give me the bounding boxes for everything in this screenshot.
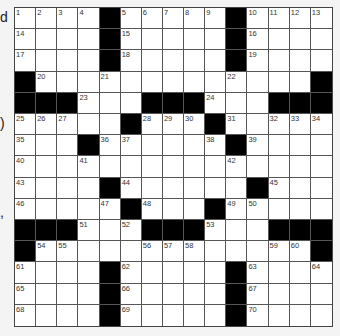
crossword-cell[interactable] [142,72,163,93]
crossword-cell[interactable] [78,114,99,135]
crossword-cell[interactable]: 19 [247,50,268,71]
crossword-cell[interactable]: 67 [247,284,268,305]
crossword-cell[interactable] [269,199,290,220]
crossword-cell[interactable] [205,72,226,93]
crossword-cell[interactable]: 29 [163,114,184,135]
crossword-cell[interactable] [205,178,226,199]
crossword-cell[interactable] [100,93,121,114]
crossword-cell[interactable] [121,72,142,93]
crossword-cell[interactable] [184,178,205,199]
crossword-cell[interactable]: 8 [184,8,205,29]
crossword-cell[interactable] [78,262,99,283]
crossword-cell[interactable] [78,72,99,93]
crossword-cell[interactable] [121,241,142,262]
crossword-cell[interactable]: 28 [142,114,163,135]
crossword-cell[interactable]: 30 [184,114,205,135]
crossword-cell[interactable] [226,241,247,262]
crossword-cell[interactable] [184,72,205,93]
crossword-cell[interactable] [184,156,205,177]
crossword-cell[interactable] [247,241,268,262]
crossword-cell[interactable]: 62 [121,262,142,283]
crossword-cell[interactable] [290,178,311,199]
crossword-cell[interactable] [226,220,247,241]
crossword-cell[interactable]: 56 [142,241,163,262]
crossword-cell[interactable] [290,72,311,93]
crossword-cell[interactable]: 39 [247,135,268,156]
crossword-cell[interactable] [269,305,290,326]
crossword-cell[interactable] [121,93,142,114]
crossword-cell[interactable] [311,50,332,71]
crossword-cell[interactable] [184,284,205,305]
crossword-cell[interactable]: 69 [121,305,142,326]
crossword-cell[interactable] [163,305,184,326]
crossword-cell[interactable] [57,305,78,326]
crossword-cell[interactable]: 24 [205,93,226,114]
crossword-cell[interactable]: 20 [36,72,57,93]
crossword-cell[interactable] [100,241,121,262]
crossword-cell[interactable] [142,135,163,156]
crossword-cell[interactable]: 14 [15,29,36,50]
crossword-cell[interactable]: 22 [226,72,247,93]
crossword-cell[interactable]: 18 [121,50,142,71]
crossword-cell[interactable] [36,178,57,199]
crossword-cell[interactable]: 59 [269,241,290,262]
crossword-cell[interactable] [269,50,290,71]
crossword-cell[interactable] [121,156,142,177]
crossword-cell[interactable]: 55 [57,241,78,262]
crossword-cell[interactable] [78,241,99,262]
crossword-cell[interactable] [163,156,184,177]
crossword-cell[interactable]: 52 [121,220,142,241]
crossword-cell[interactable] [78,284,99,305]
crossword-cell[interactable] [36,284,57,305]
crossword-cell[interactable]: 58 [184,241,205,262]
crossword-cell[interactable] [142,50,163,71]
crossword-cell[interactable]: 47 [100,199,121,220]
crossword-cell[interactable]: 6 [142,8,163,29]
crossword-cell[interactable] [78,305,99,326]
crossword-cell[interactable] [311,178,332,199]
crossword-cell[interactable] [57,29,78,50]
crossword-cell[interactable] [36,305,57,326]
crossword-cell[interactable]: 32 [269,114,290,135]
crossword-cell[interactable] [184,135,205,156]
crossword-cell[interactable] [269,262,290,283]
crossword-cell[interactable]: 61 [15,262,36,283]
crossword-cell[interactable] [163,199,184,220]
crossword-cell[interactable] [57,178,78,199]
crossword-cell[interactable]: 13 [311,8,332,29]
crossword-cell[interactable]: 51 [78,220,99,241]
crossword-cell[interactable]: 35 [15,135,36,156]
crossword-cell[interactable] [57,199,78,220]
crossword-cell[interactable] [290,135,311,156]
crossword-cell[interactable] [205,50,226,71]
crossword-cell[interactable]: 68 [15,305,36,326]
crossword-cell[interactable] [142,178,163,199]
crossword-cell[interactable] [142,156,163,177]
crossword-cell[interactable]: 60 [290,241,311,262]
crossword-cell[interactable] [78,50,99,71]
crossword-cell[interactable]: 44 [121,178,142,199]
crossword-cell[interactable] [247,114,268,135]
crossword-cell[interactable] [57,72,78,93]
crossword-cell[interactable] [184,199,205,220]
crossword-cell[interactable] [78,178,99,199]
crossword-cell[interactable] [205,156,226,177]
crossword-cell[interactable] [247,220,268,241]
crossword-cell[interactable] [290,50,311,71]
crossword-cell[interactable]: 5 [121,8,142,29]
crossword-cell[interactable]: 42 [226,156,247,177]
crossword-cell[interactable] [36,156,57,177]
crossword-cell[interactable] [184,305,205,326]
crossword-cell[interactable]: 65 [15,284,36,305]
crossword-cell[interactable] [36,135,57,156]
crossword-cell[interactable] [311,199,332,220]
crossword-cell[interactable] [290,305,311,326]
crossword-cell[interactable] [205,29,226,50]
crossword-cell[interactable]: 27 [57,114,78,135]
crossword-cell[interactable] [78,29,99,50]
crossword-cell[interactable] [311,29,332,50]
crossword-cell[interactable]: 38 [205,135,226,156]
crossword-cell[interactable] [247,72,268,93]
crossword-cell[interactable]: 54 [36,241,57,262]
crossword-cell[interactable] [311,305,332,326]
